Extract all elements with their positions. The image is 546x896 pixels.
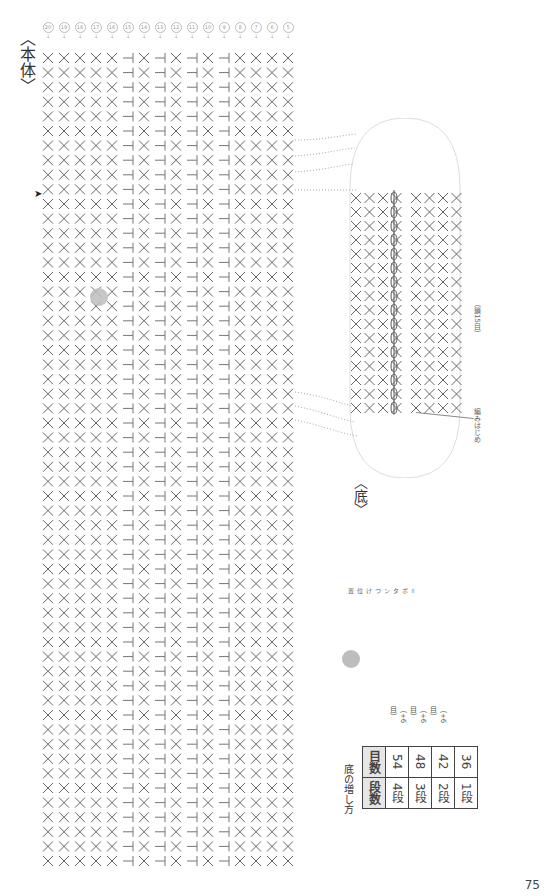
row-number-label: 19↓ bbox=[58, 22, 70, 39]
row-number-label: 13↓ bbox=[154, 22, 166, 39]
main-body-title: 〈本体〉 bbox=[14, 30, 38, 94]
stitch-grid bbox=[43, 53, 293, 866]
row-number-label: 5↓ bbox=[282, 22, 294, 39]
row-number-label: 6↓ bbox=[266, 22, 278, 39]
increase-table-title: 底の増し方 bbox=[340, 764, 355, 814]
base-title: 〈底〉 bbox=[350, 475, 370, 517]
row-number-label: 20↓ bbox=[42, 22, 54, 39]
button-legend-swatch bbox=[342, 650, 360, 668]
note-row-3: （+6目） bbox=[408, 706, 428, 723]
row-number-label: 9↓ bbox=[218, 22, 230, 39]
page-number: 75 bbox=[525, 878, 540, 892]
note-row-2: （+6目） bbox=[428, 706, 448, 723]
header-rounds: 段数 bbox=[363, 778, 386, 809]
cell-round-1: 1段 bbox=[455, 778, 478, 809]
row-number-label: 8↓ bbox=[234, 22, 246, 39]
row-number-label: 14↓ bbox=[138, 22, 150, 39]
row-number-label: 17↓ bbox=[90, 22, 102, 39]
chain-count-label: （鎖15目） bbox=[472, 300, 482, 337]
cell-round-2: 2段 bbox=[432, 778, 455, 809]
row-number-label: 16↓ bbox=[106, 22, 118, 39]
row-number-label: 11↓ bbox=[186, 22, 198, 39]
start-arrow-icon: ➤ bbox=[34, 188, 42, 199]
row-number-label: 12↓ bbox=[170, 22, 182, 39]
row-number-label: 18↓ bbox=[74, 22, 86, 39]
row-number-label: 15↓ bbox=[122, 22, 134, 39]
button-position-marker bbox=[90, 288, 108, 306]
cell-stitches-3: 48 bbox=[409, 747, 432, 778]
main-body-chart bbox=[40, 50, 300, 880]
start-label: 編みはじめ bbox=[472, 408, 482, 443]
connector-lines bbox=[295, 130, 365, 460]
header-stitches: 目数 bbox=[363, 747, 386, 778]
increase-table-block: 底の増し方 （+6目） （+6目） （+6目） 目数 54 48 42 36 段… bbox=[340, 700, 490, 840]
note-row-4: （+6目） bbox=[388, 706, 408, 723]
row-number-header: 20↓19↓18↓17↓16↓15↓14↓13↓12↓11↓10↓9↓8↓7↓6… bbox=[40, 22, 300, 42]
cell-stitches-2: 42 bbox=[432, 747, 455, 778]
cell-stitches-1: 36 bbox=[455, 747, 478, 778]
increase-table: 目数 54 48 42 36 段数 4段 3段 2段 1段 bbox=[362, 746, 478, 809]
button-legend-label: ＝ボタンつけ位置 bbox=[346, 588, 418, 594]
row-number-label: 10↓ bbox=[202, 22, 214, 39]
cell-round-3: 3段 bbox=[409, 778, 432, 809]
cell-stitches-4: 54 bbox=[386, 747, 409, 778]
cell-round-4: 4段 bbox=[386, 778, 409, 809]
row-number-label: 7↓ bbox=[250, 22, 262, 39]
